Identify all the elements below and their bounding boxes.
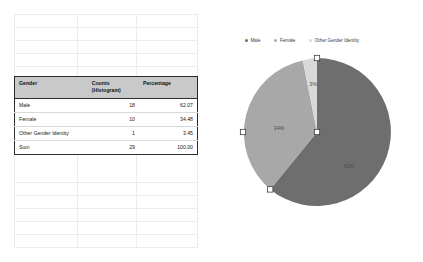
grid-row-line [14,14,198,15]
pie-label-other-gender-identity: 3% [309,81,317,87]
pie-legend: Male Female Other Gender Identity [245,38,421,43]
legend-label-other-gender-identity: Other Gender Identity [315,38,359,43]
cell-count: 29 [88,141,139,155]
grid-row-line [14,208,198,209]
legend-label-male: Male [251,38,261,43]
column-header-counts-line1: Counts [92,80,135,87]
grid-row-line [14,247,198,248]
selection-handle-center[interactable] [314,129,319,134]
grid-row-line [14,40,198,41]
pie-chart-panel[interactable]: Male Female Other Gender Identity 62% 34… [225,22,421,237]
legend-item-male[interactable]: Male [245,38,260,43]
table-header-row: Gender Counts (Histogram) Percentage [15,77,198,99]
column-header-gender: Gender [15,77,88,99]
cell-percentage: 34.48 [139,113,198,127]
cell-gender: Other Gender Identity [15,127,88,141]
table-row-sum[interactable]: Sum 29 100.00 [15,141,198,155]
legend-item-other-gender-identity[interactable]: Other Gender Identity [309,38,359,43]
cell-count: 10 [88,113,139,127]
cell-gender: Male [15,99,88,113]
selection-handle-left[interactable] [240,129,245,134]
table-row[interactable]: Female 10 34.48 [15,113,198,127]
cell-gender: Female [15,113,88,127]
legend-swatch-male [245,39,248,42]
grid-row-line [14,221,198,222]
cell-count: 1 [88,127,139,141]
cell-percentage: 62.07 [139,99,198,113]
frequency-table[interactable]: Gender Counts (Histogram) Percentage Mal… [14,76,198,155]
legend-swatch-other-gender-identity [309,39,312,42]
selection-handle-bottom-left[interactable] [268,187,273,192]
pie-chart-svg[interactable]: 62% 34% 3% [237,52,397,212]
column-header-counts-line2: (Histogram) [92,87,135,94]
grid-row-line [14,66,198,67]
legend-swatch-female [274,39,277,42]
grid-row-line [14,234,198,235]
table-row[interactable]: Male 18 62.07 [15,99,198,113]
cell-percentage: 3.45 [139,127,198,141]
grid-row-line [14,53,198,54]
table-row[interactable]: Other Gender Identity 1 3.45 [15,127,198,141]
legend-label-female: Female [280,38,295,43]
cell-count: 18 [88,99,139,113]
grid-row-line [14,182,198,183]
legend-item-female[interactable]: Female [274,38,295,43]
pie-label-male: 62% [344,163,355,169]
cell-gender: Sum [15,141,88,155]
grid-row-line [14,195,198,196]
grid-row-line [14,27,198,28]
column-header-counts: Counts (Histogram) [88,77,139,99]
pie-chart[interactable]: 62% 34% 3% [237,52,397,212]
selection-handle-top[interactable] [314,55,319,60]
cell-percentage: 100.00 [139,141,198,155]
pie-label-female: 34% [274,125,285,131]
column-header-percentage: Percentage [139,77,198,99]
